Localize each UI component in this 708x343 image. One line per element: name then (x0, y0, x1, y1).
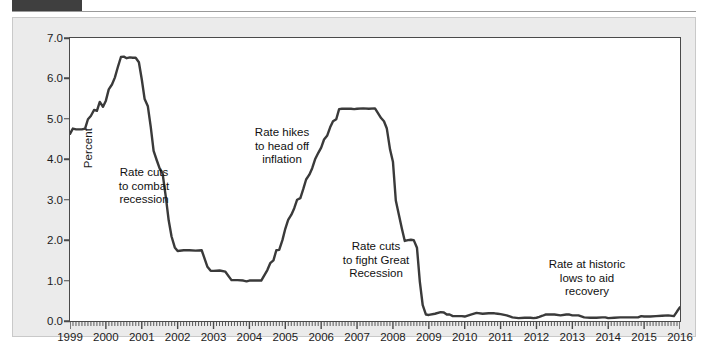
x-axis-tick-label: 2007 (344, 331, 370, 343)
chart-annotation: Rate at historic lows to aid recovery (534, 258, 640, 299)
x-axis-tick-label: 2008 (380, 331, 406, 343)
x-axis-tick-label: 2005 (272, 331, 298, 343)
header-rule-divider (12, 11, 696, 12)
y-axis-tick-label: 1.0 (47, 275, 63, 287)
x-axis-tick-label: 2001 (129, 331, 155, 343)
x-axis-tick-label: 1999 (57, 331, 83, 343)
y-axis-tick-label: 6.0 (47, 72, 63, 84)
y-axis-tick-label: 7.0 (47, 32, 63, 44)
y-axis-tick-label: 4.0 (47, 153, 63, 165)
x-axis-tick-label: 2000 (93, 331, 119, 343)
y-axis-tick-label: 0.0 (47, 315, 63, 327)
x-axis-tick-label: 2015 (631, 331, 657, 343)
y-axis-tick-label: 5.0 (47, 113, 63, 125)
x-axis-tick-label: 2006 (308, 331, 334, 343)
x-axis-tick-label: 2016 (667, 331, 693, 343)
figure-page: Percent 0.01.02.03.04.05.06.07.0 1999200… (0, 0, 708, 343)
x-axis-tick-label: 2009 (416, 331, 442, 343)
chart-figure-panel: Percent 0.01.02.03.04.05.06.07.0 1999200… (12, 17, 696, 337)
x-axis-tick-label: 2012 (524, 331, 550, 343)
y-axis-tick-label: 3.0 (47, 194, 63, 206)
x-axis-tick-label: 2011 (488, 331, 513, 343)
x-axis-minor-ticks (70, 321, 680, 330)
chart-annotation: Rate cuts to fight Great Recession (328, 240, 424, 281)
y-axis-tick-label: 2.0 (47, 234, 63, 246)
x-axis-tick-label: 2013 (560, 331, 586, 343)
header-accent-bar (12, 0, 82, 11)
chart-annotation: Rate cuts to combat recession (101, 166, 187, 207)
x-axis-tick-label: 2014 (595, 331, 621, 343)
x-axis-tick-label: 2003 (201, 331, 227, 343)
chart-annotation: Rate hikes to head off inflation (239, 126, 325, 167)
x-axis-tick-label: 2004 (237, 331, 263, 343)
x-axis-tick-label: 2010 (452, 331, 478, 343)
x-axis-tick-label: 2002 (165, 331, 191, 343)
